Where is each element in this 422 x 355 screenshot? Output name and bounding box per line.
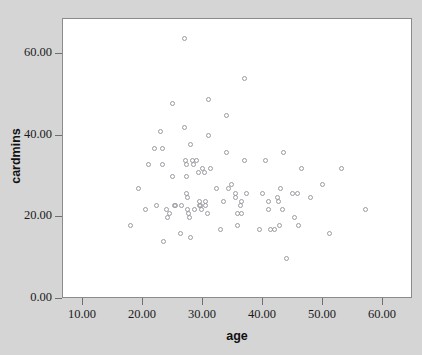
data-point xyxy=(266,207,271,212)
data-point xyxy=(272,227,277,232)
data-point xyxy=(188,142,193,147)
data-point xyxy=(320,182,325,187)
data-point xyxy=(170,174,175,179)
x-axis-tick xyxy=(82,298,83,305)
data-point xyxy=(280,207,285,212)
data-point xyxy=(199,207,204,212)
data-point xyxy=(206,133,211,138)
data-point xyxy=(178,231,183,236)
data-point xyxy=(257,227,262,232)
data-point xyxy=(182,125,187,130)
y-axis-tick xyxy=(55,298,62,299)
x-axis-tick xyxy=(322,298,323,305)
data-point xyxy=(194,158,199,163)
y-axis-title: cardmins xyxy=(9,101,23,211)
data-point xyxy=(161,239,166,244)
data-point xyxy=(296,223,301,228)
data-point xyxy=(278,186,283,191)
data-point xyxy=(206,97,211,102)
y-axis-tick-label: 40.00 xyxy=(0,127,52,142)
data-point xyxy=(214,186,219,191)
x-axis-tick xyxy=(142,298,143,305)
data-point xyxy=(339,166,344,171)
x-axis-tick xyxy=(262,298,263,305)
data-point xyxy=(202,170,207,175)
data-point xyxy=(146,162,151,167)
data-point xyxy=(276,199,281,204)
y-axis-tick xyxy=(55,216,62,217)
data-point xyxy=(263,158,268,163)
x-axis-tick-label: 60.00 xyxy=(347,307,417,322)
data-point xyxy=(152,146,157,151)
data-point xyxy=(192,207,197,212)
data-point xyxy=(158,129,163,134)
data-point xyxy=(184,174,189,179)
data-point xyxy=(281,150,286,155)
data-point xyxy=(221,199,226,204)
data-point xyxy=(184,162,189,167)
data-point xyxy=(218,227,223,232)
x-axis-tick xyxy=(202,298,203,305)
data-point xyxy=(242,158,247,163)
data-point xyxy=(203,199,208,204)
data-point xyxy=(182,36,187,41)
data-point xyxy=(239,199,244,204)
data-point xyxy=(295,191,300,196)
data-point xyxy=(260,191,265,196)
y-axis-tick-label: 20.00 xyxy=(0,208,52,223)
x-axis-title: age xyxy=(62,329,412,343)
plot-area xyxy=(62,18,412,298)
data-point xyxy=(154,203,159,208)
data-point xyxy=(242,76,247,81)
data-point xyxy=(224,113,229,118)
data-point xyxy=(229,182,234,187)
data-point xyxy=(235,223,240,228)
data-point xyxy=(196,170,201,175)
data-point xyxy=(266,199,271,204)
data-point xyxy=(170,101,175,106)
scatter-plot-figure: 0.0020.0040.0060.00 10.0020.0030.0040.00… xyxy=(0,0,422,355)
data-point xyxy=(208,166,213,171)
data-point xyxy=(143,207,148,212)
data-point xyxy=(244,191,249,196)
data-point xyxy=(239,211,244,216)
data-point xyxy=(136,186,141,191)
data-point xyxy=(292,215,297,220)
data-point xyxy=(363,207,368,212)
data-point xyxy=(173,203,178,208)
data-point xyxy=(224,150,229,155)
data-points-layer xyxy=(63,19,411,297)
y-axis-tick xyxy=(55,53,62,54)
data-point xyxy=(284,256,289,261)
data-point xyxy=(226,186,231,191)
data-point xyxy=(188,235,193,240)
y-axis-tick-label: 0.00 xyxy=(0,290,52,305)
data-point xyxy=(167,211,172,216)
data-point xyxy=(179,203,184,208)
data-point xyxy=(277,223,282,228)
data-point xyxy=(233,195,238,200)
data-point xyxy=(187,215,192,220)
y-axis-tick-label: 60.00 xyxy=(0,45,52,60)
data-point xyxy=(160,162,165,167)
data-point xyxy=(128,223,133,228)
data-point xyxy=(308,195,313,200)
data-point xyxy=(327,231,332,236)
data-point xyxy=(160,146,165,151)
data-point xyxy=(299,166,304,171)
x-axis-tick xyxy=(382,298,383,305)
y-axis-tick xyxy=(55,135,62,136)
data-point xyxy=(205,211,210,216)
data-point xyxy=(185,195,190,200)
